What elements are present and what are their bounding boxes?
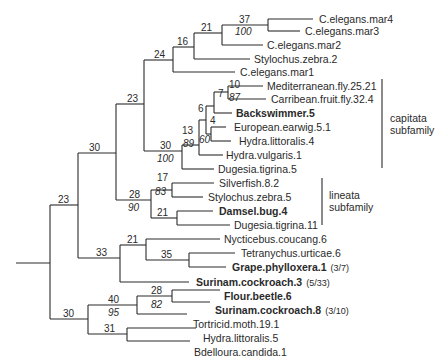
node-support: 37 [239, 14, 251, 25]
leaf-label: C.elegans.mar3 [305, 25, 379, 37]
node-support: 31 [104, 323, 116, 334]
node-bootstrap: 83 [155, 186, 167, 197]
leaf-label: C.elegans.mar4 [319, 13, 393, 25]
node-support: 7 [218, 88, 224, 99]
leaf-label: Damsel.bug.4 [219, 205, 287, 217]
node-support: 13 [182, 125, 194, 136]
leaf-label: Hydra.littoralis.4 [239, 135, 314, 147]
node-support: 21 [201, 22, 213, 33]
node-support: 30 [63, 308, 75, 319]
leaf-label: C.elegans.mar2 [267, 39, 341, 51]
node-support: 10 [229, 79, 241, 90]
capitata-label-line2: subfamily [390, 124, 435, 136]
node-support: 21 [127, 234, 139, 245]
node-support: 40 [108, 294, 120, 305]
lineata-label-line2: subfamily [329, 201, 374, 213]
node-bootstrap: 100 [235, 26, 252, 37]
leaf-label: Tortricid.moth.19.1 [193, 318, 280, 330]
node-support: 4 [210, 115, 216, 126]
node-support: 30 [160, 140, 172, 151]
leaf-label-with-note: Surinam.cockroach.8(3/10) [215, 304, 349, 316]
leaf-label: Flour.beetle.6 [224, 290, 292, 302]
leaf-label: Nycticebus.coucang.6 [224, 233, 327, 245]
node-bootstrap: 100 [157, 153, 174, 164]
node-support: 17 [157, 172, 169, 183]
node-support: 16 [177, 36, 189, 47]
node-bootstrap: 95 [108, 307, 120, 318]
node-support: 6 [198, 103, 204, 114]
node-support: 24 [154, 49, 166, 60]
leaf-label: Dugesia.tigrina.5 [218, 163, 297, 175]
node-bootstrap: 90 [128, 202, 140, 213]
node-support: 23 [127, 93, 139, 104]
node-support: 28 [151, 285, 163, 296]
node-bootstrap: 87 [229, 92, 241, 103]
leaf-label: Stylochus.zebra.2 [254, 53, 338, 65]
leaf-label: Hydra.vulgaris.1 [226, 149, 302, 161]
leaf-label-with-note: Surinam.cockroach.3(5/33) [196, 276, 330, 288]
leaf-labels: C.elegans.mar4 C.elegans.mar3 C.elegans.… [193, 13, 393, 358]
node-bootstrap: 60 [199, 134, 211, 145]
node-support: 28 [129, 189, 141, 200]
leaf-label: Backswimmer.5 [236, 107, 315, 119]
capitata-label-line1: capitata [390, 112, 427, 124]
leaf-label-with-note: Grape.phylloxera.1(3/7) [232, 261, 349, 273]
leaf-label: Hydra.littoralis.5 [203, 332, 278, 344]
node-support: 23 [58, 194, 70, 205]
node-support: 21 [157, 207, 169, 218]
node-bootstrap: 82 [151, 299, 163, 310]
leaf-label: European.earwig.5.1 [234, 121, 331, 133]
leaf-label: C.elegans.mar1 [240, 66, 314, 78]
phylogenetic-tree: capitata subfamily lineata subfamily C.e… [0, 0, 447, 359]
node-support: 33 [96, 247, 108, 258]
node-bootstrap: 89 [183, 138, 195, 149]
leaf-label: Stylochus.zebra.5 [208, 191, 292, 203]
leaf-label: Mediterranean.fly.25.21 [267, 80, 377, 92]
leaf-label: Tetranychus.urticae.6 [241, 247, 341, 259]
leaf-label: Silverfish.8.2 [219, 177, 279, 189]
leaf-label: Dugesia.tigrina.11 [234, 219, 318, 231]
leaf-label: Carribean.fruit.fly.32.4 [271, 93, 374, 105]
node-support: 30 [89, 142, 101, 153]
lineata-label-line1: lineata [329, 189, 360, 201]
node-support: 35 [161, 249, 173, 260]
leaf-label: Bdelloura.candida.1 [194, 346, 287, 358]
